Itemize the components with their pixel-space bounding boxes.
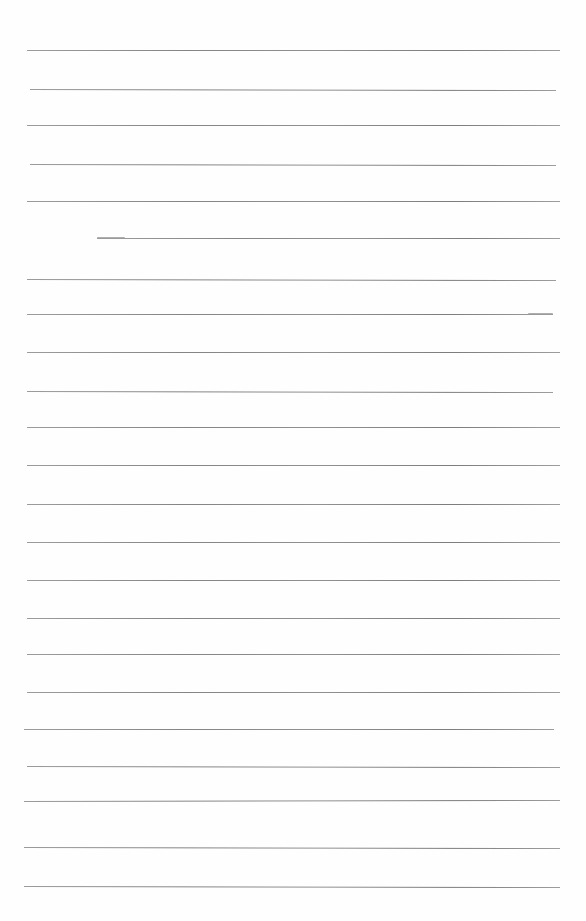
ruled-line [27, 391, 553, 393]
ruled-line [24, 886, 560, 888]
ruled-line [27, 427, 560, 428]
ruled-line [24, 847, 560, 849]
ruled-line [24, 729, 554, 730]
ruled-line [27, 692, 560, 693]
ruled-line [27, 542, 560, 543]
ruled-line [27, 504, 560, 505]
ruled-line [27, 766, 560, 768]
ruled-line [27, 279, 556, 281]
ruled-line [27, 352, 560, 353]
ruled-line [27, 654, 560, 655]
ruled-line [27, 314, 553, 315]
ruled-line [27, 580, 560, 581]
ink-smudge [97, 237, 125, 239]
ruled-line [27, 618, 560, 619]
ruled-line [30, 164, 556, 166]
ink-smudge [528, 313, 553, 315]
ruled-line [27, 201, 560, 202]
lined-paper-page [0, 0, 586, 921]
ruled-line [97, 238, 560, 239]
ruled-line [27, 125, 560, 126]
ruled-line [24, 800, 560, 802]
ruled-line [30, 89, 556, 91]
ruled-line [27, 50, 560, 51]
ruled-line [27, 465, 560, 466]
